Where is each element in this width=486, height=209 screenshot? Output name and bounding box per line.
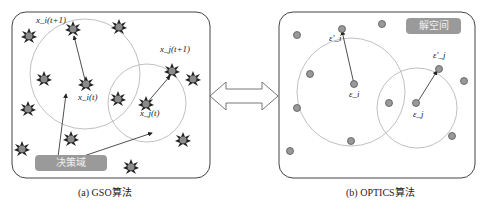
optics-caption: (b) OPTICS算法 bbox=[346, 184, 415, 199]
decision-domain-badge: 决策域 bbox=[35, 155, 107, 171]
solution-space-badge: 解空间 bbox=[406, 18, 461, 34]
data-points bbox=[287, 21, 468, 155]
label-ej-prime: ε'_j bbox=[433, 50, 445, 60]
neighborhood-circle-i bbox=[30, 19, 140, 129]
label-ei: ε_i bbox=[349, 89, 360, 99]
label-ej: ε_j bbox=[413, 109, 424, 119]
label-xi-t1: x_i(t+1) bbox=[36, 15, 66, 25]
gso-caption: (a) GSO算法 bbox=[78, 184, 132, 199]
label-ei-prime: ε'_i bbox=[329, 33, 341, 43]
label-xi-t: x_i(t) bbox=[78, 92, 98, 102]
optics-panel bbox=[279, 12, 475, 178]
agent-stars bbox=[14, 19, 201, 174]
gso-panel bbox=[12, 12, 210, 178]
label-xj-t: x_j(t) bbox=[140, 108, 160, 118]
double-arrow-icon bbox=[210, 82, 278, 110]
label-xj-t1: x_j(t+1) bbox=[160, 44, 190, 54]
